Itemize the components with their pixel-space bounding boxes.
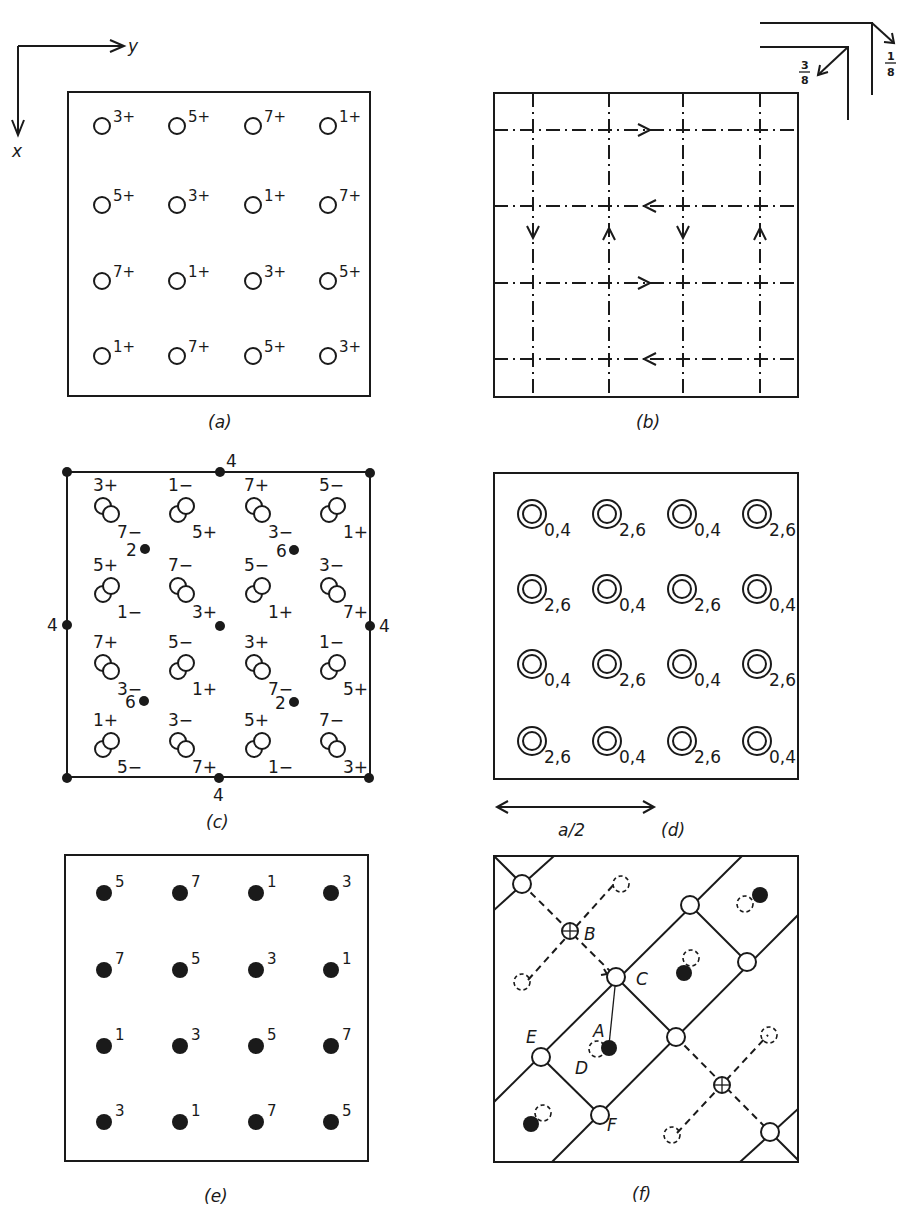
atom-pair: 5+1− bbox=[93, 555, 142, 622]
point-label-b: B bbox=[584, 924, 596, 944]
panel-c-atom-pairs: 3+7−1−5+7+3−5−1+5+1−7−3+5−1+3−7+7+3−5−1+… bbox=[93, 475, 368, 777]
atom: 3+ bbox=[169, 187, 210, 213]
atom: 3+ bbox=[94, 108, 135, 134]
atom-height-label: 1+ bbox=[188, 263, 210, 281]
atom-height-label: 5 bbox=[115, 873, 125, 891]
atom-height-label: 5+ bbox=[343, 679, 368, 699]
double-atom: 2,6 bbox=[593, 500, 646, 540]
panel-e-caption: (e) bbox=[204, 1186, 228, 1206]
scale-label: a/2 bbox=[558, 820, 585, 840]
filled-atom: 3 bbox=[172, 1026, 201, 1054]
panel-b bbox=[494, 93, 798, 397]
atom-height-label: 3− bbox=[168, 710, 193, 730]
glide-lower-num: 3 bbox=[801, 59, 809, 72]
atom-pair: 7+3− bbox=[93, 632, 142, 699]
double-atom: 2,6 bbox=[593, 650, 646, 690]
atom-height-label: 7+ bbox=[192, 757, 217, 777]
filled-atom: 1 bbox=[323, 950, 352, 978]
atom-height-label: 7+ bbox=[188, 338, 210, 356]
atom-height-label: 7− bbox=[168, 555, 193, 575]
atom-height-label: 2,6 bbox=[769, 670, 796, 690]
double-atom: 2,6 bbox=[668, 727, 721, 767]
atom-height-label: 7− bbox=[268, 679, 293, 699]
atom-pair: 5+1− bbox=[244, 710, 293, 777]
atom-height-label: 1− bbox=[168, 475, 193, 495]
atom-height-label: 5+ bbox=[113, 187, 135, 205]
circled-plus-icon bbox=[714, 1077, 730, 1093]
atom-height-label: 2,6 bbox=[619, 670, 646, 690]
atom-height-label: 5 bbox=[191, 950, 201, 968]
atom: 1+ bbox=[169, 263, 210, 289]
glide-lower-den: 8 bbox=[801, 74, 809, 87]
fourfold-label-right: 4 bbox=[379, 616, 390, 636]
filled-atom: 1 bbox=[172, 1102, 201, 1130]
panel-a-caption: (a) bbox=[208, 412, 232, 432]
atom-height-label: 7 bbox=[115, 950, 125, 968]
atom: 7+ bbox=[245, 108, 286, 134]
atom-height-label: 5− bbox=[319, 475, 344, 495]
atom: 1+ bbox=[320, 108, 361, 134]
atom-height-label: 3+ bbox=[343, 757, 368, 777]
filled-atom: 5 bbox=[96, 873, 125, 901]
fourfold-label-top: 4 bbox=[226, 451, 237, 471]
filled-atom: 7 bbox=[248, 1102, 277, 1130]
double-atom: 2,6 bbox=[743, 650, 796, 690]
space-group-diagram: y x 3 8 1 8 (a) bbox=[0, 0, 897, 1223]
panel-a-atoms: 3+5+7+1+5+3+1+7+7+1+3+5+1+7+5+3+ bbox=[94, 108, 361, 364]
atom: 1+ bbox=[94, 338, 135, 364]
glide-upper-den: 8 bbox=[887, 66, 895, 79]
atom-height-label: 1− bbox=[268, 757, 293, 777]
atom-pair: 3−7+ bbox=[168, 710, 217, 777]
point-label-c: C bbox=[636, 969, 648, 989]
atom-height-label: 1 bbox=[342, 950, 352, 968]
axis-indicator: y x bbox=[11, 36, 139, 161]
atom-height-label: 2,6 bbox=[694, 747, 721, 767]
filled-atom: 5 bbox=[323, 1102, 352, 1130]
atom-height-label: 5− bbox=[244, 555, 269, 575]
atom-height-label: 3+ bbox=[113, 108, 135, 126]
double-atom: 0,4 bbox=[668, 650, 721, 690]
atom-height-label: 7+ bbox=[244, 475, 269, 495]
point-label-a: A bbox=[592, 1021, 605, 1041]
atom-height-label: 5− bbox=[117, 757, 142, 777]
panel-e bbox=[65, 855, 368, 1161]
atom-pair: 1−5+ bbox=[319, 632, 368, 699]
atom-height-label: 1− bbox=[319, 632, 344, 652]
panel-f: B C A D E F bbox=[494, 856, 798, 1162]
double-atom: 2,6 bbox=[518, 727, 571, 767]
panel-f-caption: (f) bbox=[632, 1184, 651, 1204]
atom-height-label: 3− bbox=[268, 522, 293, 542]
atom-height-label: 2,6 bbox=[694, 595, 721, 615]
filled-atom: 3 bbox=[96, 1102, 125, 1130]
atom-height-label: 5+ bbox=[93, 555, 118, 575]
atom-height-label: 0,4 bbox=[694, 520, 721, 540]
atom-height-label: 7+ bbox=[339, 187, 361, 205]
double-atom: 2,6 bbox=[743, 500, 796, 540]
atom-pair: 3−7+ bbox=[319, 555, 368, 622]
atom-pair: 1−5+ bbox=[168, 475, 217, 542]
atom: 5+ bbox=[320, 263, 361, 289]
circled-plus-icon bbox=[562, 923, 578, 939]
atom-height-label: 0,4 bbox=[544, 670, 571, 690]
atom-height-label: 3 bbox=[342, 873, 352, 891]
atom-height-label: 7 bbox=[191, 873, 201, 891]
glide-plane-legend: 3 8 1 8 bbox=[760, 23, 896, 120]
double-atom: 0,4 bbox=[743, 727, 796, 767]
atom-height-label: 1+ bbox=[339, 108, 361, 126]
glide-upper-num: 1 bbox=[887, 50, 895, 63]
panel-b-caption: (b) bbox=[636, 412, 660, 432]
atom-height-label: 0,4 bbox=[694, 670, 721, 690]
atom-height-label: 3+ bbox=[339, 338, 361, 356]
atom-height-label: 0,4 bbox=[619, 747, 646, 767]
atom-height-label: 0,4 bbox=[769, 595, 796, 615]
filled-atom: 5 bbox=[248, 1026, 277, 1054]
atom-height-label: 7+ bbox=[264, 108, 286, 126]
atom-pair: 1+5− bbox=[93, 710, 142, 777]
atom-height-label: 7+ bbox=[93, 632, 118, 652]
atom-height-label: 1− bbox=[117, 602, 142, 622]
fourfold-label-bottom: 4 bbox=[213, 785, 224, 805]
atom-height-label: 7 bbox=[267, 1102, 277, 1120]
atom-height-label: 1+ bbox=[268, 602, 293, 622]
atom-height-label: 3 bbox=[191, 1026, 201, 1044]
atom-height-label: 5+ bbox=[192, 522, 217, 542]
